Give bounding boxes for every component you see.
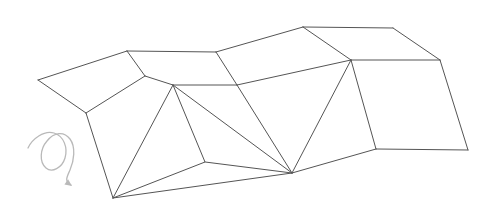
rotation-arrow-icon	[28, 132, 74, 185]
panel-faces-layer	[38, 27, 468, 198]
rotation-arrow-annotation	[28, 132, 74, 186]
crease-pattern-canvas	[0, 0, 496, 222]
rotation-arrow-head-icon	[64, 179, 72, 186]
folded-paper-diagram	[0, 0, 496, 222]
